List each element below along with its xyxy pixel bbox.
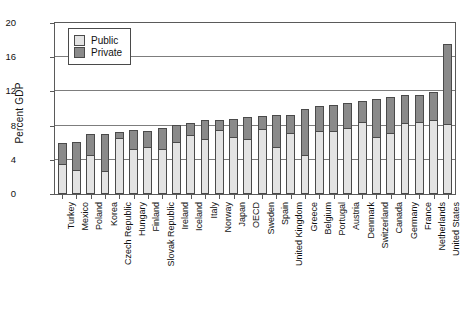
x-axis-category-label: Spain xyxy=(280,202,290,225)
bar-segment-private xyxy=(443,44,452,125)
bar-segment-public xyxy=(315,132,324,194)
bar-segment-private xyxy=(401,95,410,124)
bar-segment-private xyxy=(372,99,381,138)
bar-segment-public xyxy=(158,150,167,194)
x-axis-tick-mark xyxy=(419,195,420,199)
bar-segment-private xyxy=(186,123,195,136)
x-axis-category-label: Portugal xyxy=(337,202,347,236)
bar-column xyxy=(386,97,395,194)
bar-column xyxy=(201,120,210,194)
chart-container: Percent GDP 048121620 TurkeyMexicoPoland… xyxy=(0,0,472,313)
x-axis-category-label: Mexico xyxy=(80,202,90,231)
bar-segment-public xyxy=(301,156,310,194)
y-axis-tick-label: 8 xyxy=(0,120,16,131)
bar-segment-public xyxy=(443,125,452,194)
bar-column xyxy=(229,119,238,194)
x-axis-category-label: Sweden xyxy=(266,202,276,235)
legend-item-public: Public xyxy=(74,35,122,46)
bar-segment-public xyxy=(243,140,252,194)
y-axis-tick-label: 20 xyxy=(0,17,16,28)
bar-segment-private xyxy=(72,142,81,171)
x-axis-category-label: Slovak Republic xyxy=(166,202,176,267)
bar-segment-private xyxy=(229,119,238,139)
legend-label-private: Private xyxy=(91,47,122,58)
x-axis-tick-mark xyxy=(91,195,92,199)
bar-segment-private xyxy=(201,120,210,140)
bar-column xyxy=(315,106,324,194)
bar-segment-public xyxy=(415,123,424,194)
x-axis-category-label: France xyxy=(423,202,433,230)
bar-segment-private xyxy=(172,125,181,143)
x-axis-tick-mark xyxy=(62,195,63,199)
y-axis-tick-label: 4 xyxy=(0,154,16,165)
bar-column xyxy=(401,95,410,194)
bar-column xyxy=(329,105,338,194)
x-axis-tick-mark xyxy=(262,195,263,199)
x-axis-category-label: Canada xyxy=(394,202,404,234)
bar-segment-private xyxy=(86,134,95,155)
bar-segment-public xyxy=(215,131,224,194)
x-axis-category-label: Belgium xyxy=(323,202,333,235)
y-axis-title-label: Percent GDP xyxy=(14,58,25,168)
bar-column xyxy=(101,134,110,194)
bar-column xyxy=(443,44,452,194)
x-axis-category-label: Hungary xyxy=(137,202,147,236)
x-axis-category-label: Iceland xyxy=(194,202,204,231)
bar-column xyxy=(258,116,267,194)
x-axis-category-label: Norway xyxy=(223,202,233,233)
bar-segment-private xyxy=(143,131,152,148)
x-axis-tick-mark xyxy=(191,195,192,199)
bar-column xyxy=(58,143,67,194)
bar-column xyxy=(343,103,352,194)
x-axis-tick-mark xyxy=(176,195,177,199)
bar-segment-public xyxy=(143,148,152,194)
x-axis-tick-mark xyxy=(219,195,220,199)
bar-segment-public xyxy=(429,121,438,194)
bar-segment-private xyxy=(215,120,224,131)
x-axis-tick-mark xyxy=(391,195,392,199)
x-axis-tick-mark xyxy=(234,195,235,199)
bar-segment-private xyxy=(358,101,367,123)
bar-segment-public xyxy=(201,140,210,194)
bar-column xyxy=(243,117,252,194)
bar-segment-public xyxy=(115,139,124,194)
bar-column xyxy=(301,109,310,194)
x-axis-tick-mark xyxy=(248,195,249,199)
bar-segment-public xyxy=(343,129,352,194)
y-axis-tick-label: 12 xyxy=(0,85,16,96)
x-axis-tick-mark xyxy=(76,195,77,199)
y-axis-tick-label: 0 xyxy=(0,188,16,199)
bar-segment-public xyxy=(86,156,95,194)
x-axis-tick-mark xyxy=(119,195,120,199)
x-axis-tick-mark xyxy=(276,195,277,199)
bar-segment-public xyxy=(286,134,295,194)
legend-swatch-private-icon xyxy=(74,47,85,58)
bar-segment-public xyxy=(358,123,367,194)
bar-segment-private xyxy=(286,115,295,135)
bar-column xyxy=(186,123,195,194)
bar-segment-public xyxy=(186,136,195,194)
bar-column xyxy=(72,142,81,194)
bar-segment-public xyxy=(58,165,67,194)
legend-label-public: Public xyxy=(91,35,118,46)
bar-column xyxy=(415,95,424,194)
chart-legend: Public Private xyxy=(68,28,131,65)
bar-segment-private xyxy=(415,95,424,123)
bar-segment-private xyxy=(243,117,252,140)
bar-segment-public xyxy=(329,132,338,194)
bar-column xyxy=(158,128,167,194)
x-axis-category-label: Turkey xyxy=(66,202,76,229)
bar-segment-private xyxy=(158,128,167,149)
legend-swatch-public-icon xyxy=(74,35,85,46)
bar-segment-public xyxy=(172,143,181,194)
x-axis-tick-mark xyxy=(405,195,406,199)
bar-segment-public xyxy=(386,134,395,194)
bar-segment-private xyxy=(315,106,324,132)
x-axis-category-label: Finland xyxy=(151,202,161,232)
x-axis-category-label: Germany xyxy=(409,202,419,239)
bar-segment-private xyxy=(258,116,267,130)
legend-item-private: Private xyxy=(74,47,122,58)
x-axis-tick-mark xyxy=(448,195,449,199)
x-axis-tick-mark xyxy=(305,195,306,199)
x-axis-tick-mark xyxy=(362,195,363,199)
